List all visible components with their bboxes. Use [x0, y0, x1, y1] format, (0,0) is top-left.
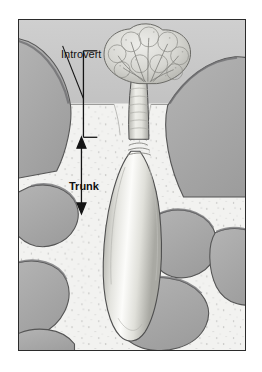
illustration-frame: Introvert Trunk [18, 19, 246, 351]
scene-illustration [19, 20, 245, 350]
figure-root: Introvert Trunk [0, 0, 262, 372]
label-introvert: Introvert [61, 49, 101, 60]
tentacle-crown [104, 24, 191, 84]
label-trunk: Trunk [69, 181, 99, 192]
introvert-neck [129, 82, 149, 140]
